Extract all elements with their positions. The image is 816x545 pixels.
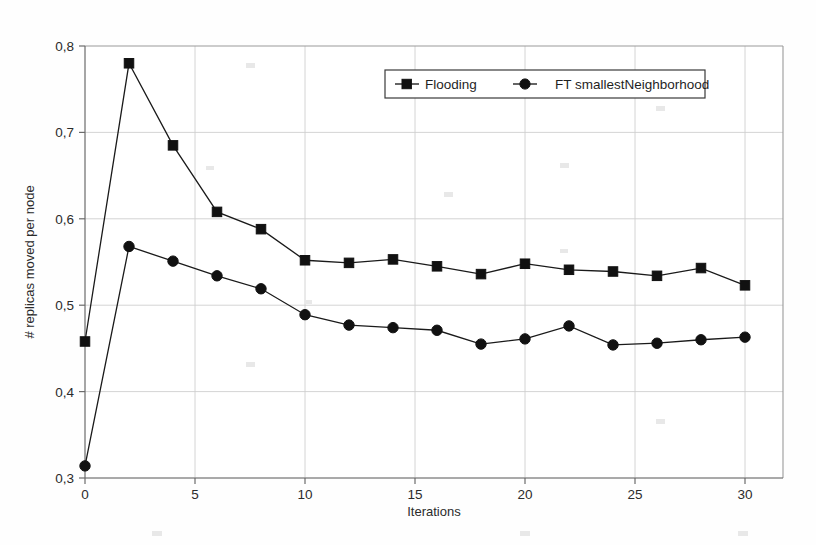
scan-speck	[656, 419, 665, 424]
data-point-marker	[212, 207, 222, 217]
data-point-marker	[652, 338, 662, 348]
data-point-marker	[520, 334, 530, 344]
data-point-marker	[124, 59, 134, 69]
chart-figure: 051015202530 0,30,40,50,60,70,8 Iteratio…	[0, 0, 816, 545]
line-chart: 051015202530 0,30,40,50,60,70,8 Iteratio…	[0, 0, 816, 545]
scan-speck	[246, 362, 255, 367]
legend-label: FT smallestNeighborhood	[555, 77, 709, 92]
y-tick-label: 0,7	[55, 125, 74, 140]
data-point-marker	[564, 265, 574, 275]
y-tick-label: 0,8	[55, 39, 74, 54]
data-point-marker	[256, 284, 266, 294]
data-point-marker	[696, 263, 706, 273]
data-point-marker	[124, 241, 134, 251]
legend-label: Flooding	[425, 77, 477, 92]
data-point-marker	[740, 281, 750, 291]
y-tick-label: 0,4	[55, 385, 74, 400]
scan-speck	[520, 531, 530, 536]
data-point-marker	[388, 322, 398, 332]
data-point-marker	[344, 320, 354, 330]
data-point-marker	[344, 258, 354, 268]
scan-speck	[738, 531, 748, 536]
data-point-marker	[168, 141, 178, 151]
y-axis-title: # replicas moved per node	[22, 185, 37, 338]
scan-speck	[560, 163, 569, 168]
data-point-marker	[476, 269, 486, 279]
data-point-marker	[300, 256, 310, 266]
x-axis-title: Iterations	[407, 504, 461, 519]
y-tick-label: 0,5	[55, 298, 74, 313]
data-point-marker	[476, 339, 486, 349]
data-point-marker	[80, 337, 90, 347]
scan-speck	[444, 192, 453, 197]
data-point-marker	[432, 325, 442, 335]
data-point-marker	[388, 255, 398, 265]
x-tick-label: 5	[191, 487, 199, 502]
data-point-marker	[608, 340, 618, 350]
data-point-marker	[300, 310, 310, 320]
data-point-marker	[564, 321, 574, 331]
data-point-marker	[256, 224, 266, 234]
data-point-marker	[608, 267, 618, 277]
legend-marker-square	[402, 79, 411, 88]
data-point-marker	[212, 271, 222, 281]
scan-speck	[656, 106, 665, 111]
chart-legend[interactable]: FloodingFT smallestNeighborhood	[385, 70, 709, 98]
data-point-marker	[740, 332, 750, 342]
scan-speck	[305, 300, 312, 304]
scan-speck	[152, 531, 162, 536]
data-point-marker	[80, 461, 90, 471]
data-point-marker	[520, 259, 530, 269]
x-tick-label: 20	[517, 487, 532, 502]
data-point-marker	[652, 271, 662, 281]
data-point-marker	[432, 262, 442, 272]
legend-marker-circle	[520, 79, 530, 89]
data-point-marker	[696, 335, 706, 345]
y-tick-label: 0,6	[55, 212, 74, 227]
y-tick-label: 0,3	[55, 471, 74, 486]
x-tick-label: 30	[737, 487, 752, 502]
x-tick-label: 10	[297, 487, 312, 502]
x-tick-label: 15	[407, 487, 422, 502]
x-tick-label: 0	[81, 487, 89, 502]
scan-speck	[206, 166, 214, 170]
scan-speck	[246, 63, 255, 68]
scan-speck	[560, 249, 568, 253]
x-tick-label: 25	[627, 487, 642, 502]
data-point-marker	[168, 256, 178, 266]
